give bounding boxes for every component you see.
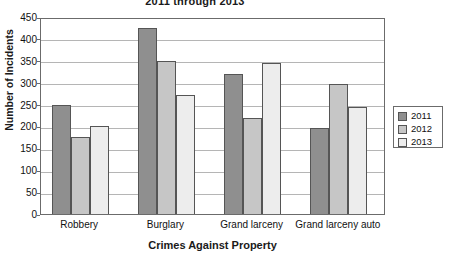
chart-legend: 201120122013 [393,106,443,148]
legend-label: 2013 [411,137,432,147]
legend-label: 2012 [411,124,432,134]
bar-group [224,19,281,214]
legend-swatch-icon [398,112,407,121]
bar [262,63,281,214]
bar-chart: 2011 through 2013 Number of Incidents 45… [0,0,452,259]
y-axis-tick-label: 400 [3,35,37,45]
chart-title: 2011 through 2013 [0,0,390,7]
legend-swatch-icon [398,138,407,147]
legend-item: 2012 [398,123,439,135]
bar [224,74,243,214]
bar [329,84,348,214]
bar [157,61,176,214]
bar [90,126,109,214]
legend-item: 2011 [398,110,439,122]
legend-item: 2013 [398,136,439,148]
legend-label: 2011 [411,111,431,121]
y-axis-tick-label: 150 [3,144,37,154]
legend-swatch-icon [398,125,407,134]
y-axis-tick-label: 200 [3,122,37,132]
x-axis-title: Crimes Against Property [40,239,385,251]
bar [348,107,367,214]
bar-group [310,19,367,214]
y-axis-tick-label: 250 [3,101,37,111]
y-axis-tick-label: 100 [3,166,37,176]
bar [71,137,90,214]
bar [52,105,71,214]
y-axis-tick-label: 50 [3,188,37,198]
bar [176,95,195,214]
bar-group [138,19,195,214]
plot-area [40,18,385,215]
y-axis-tick-label: 450 [3,13,37,23]
x-axis-category-label: Grand larceny auto [278,219,398,230]
y-axis-tick-labels: 450400350300250200150100500 [0,18,37,215]
bar-group [52,19,109,214]
y-axis-tick-label: 300 [3,79,37,89]
bar [243,118,262,214]
bar [138,28,157,214]
bar [310,128,329,214]
y-axis-tick-label: 350 [3,57,37,67]
